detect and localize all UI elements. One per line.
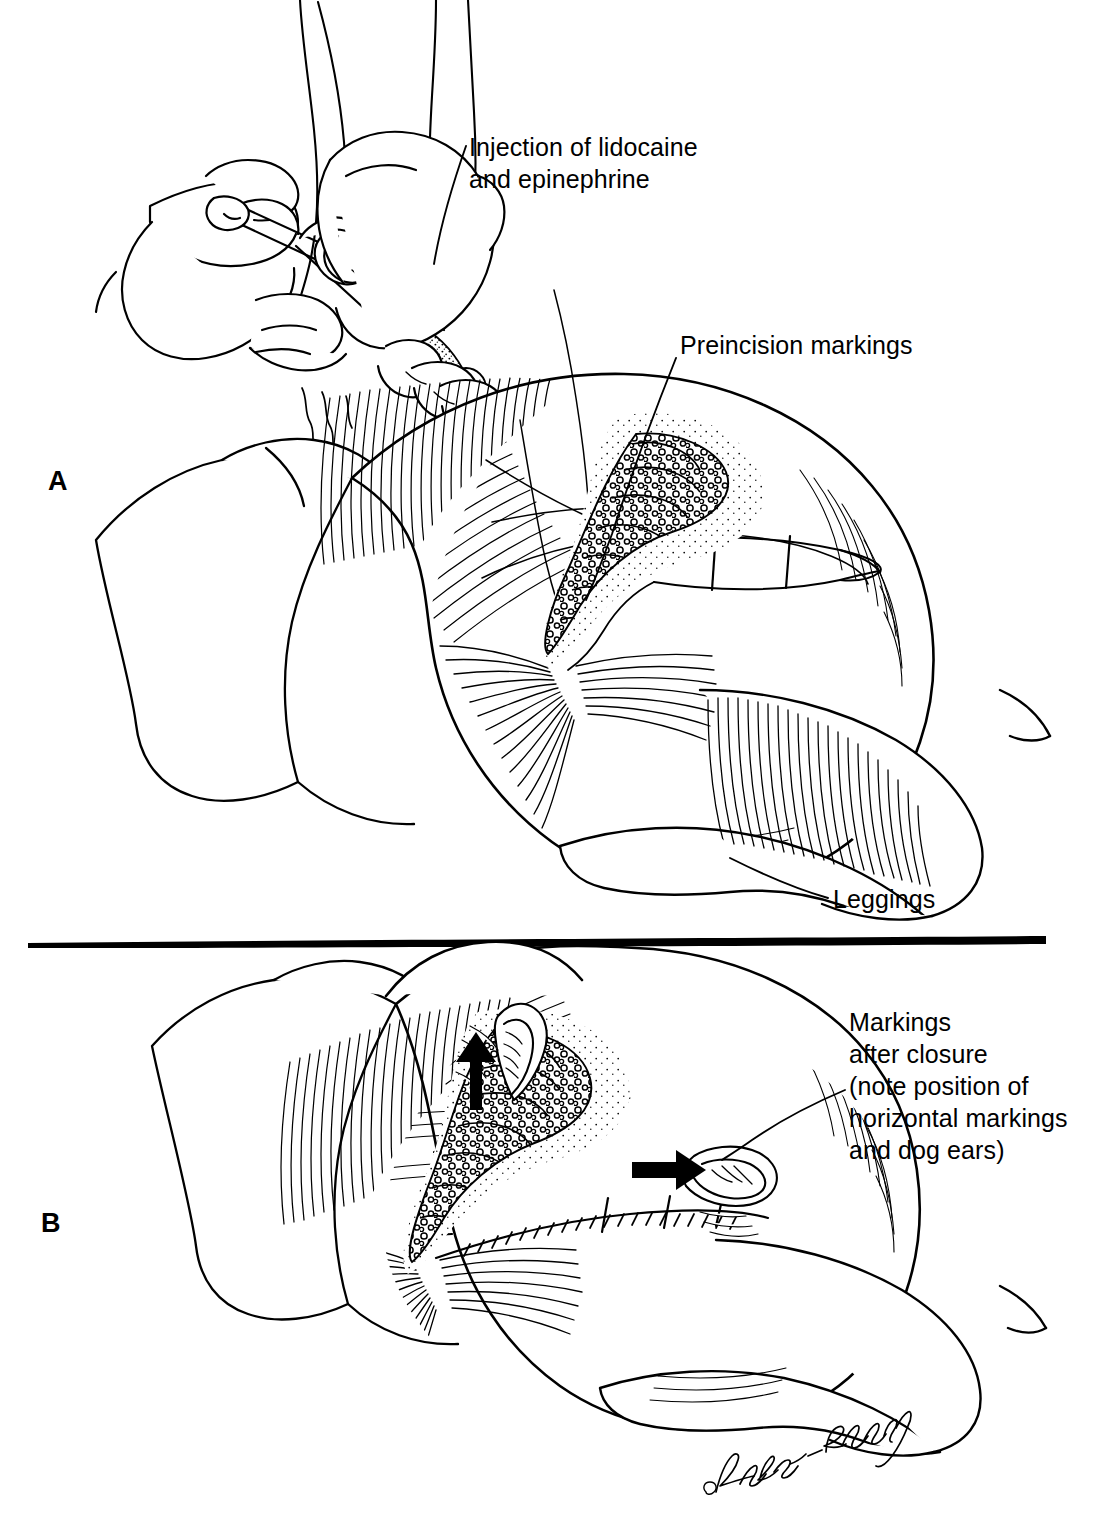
panel-letter-b: B [41, 1208, 61, 1239]
injection-label: Injection of lidocaine and epinephrine [469, 131, 698, 195]
illustration-linework [0, 0, 1094, 1531]
leggings-drape-left [96, 439, 414, 824]
panel-divider-rule [28, 936, 1046, 948]
leggings-label: Leggings [833, 883, 935, 915]
panel-letter-a: A [48, 466, 68, 497]
markings-after-closure-label: Markings after closure (note position of… [849, 1006, 1068, 1166]
medical-illustration-figure: Injection of lidocaine and epinephrine P… [0, 0, 1094, 1531]
preincision-markings-label: Preincision markings [680, 329, 913, 361]
